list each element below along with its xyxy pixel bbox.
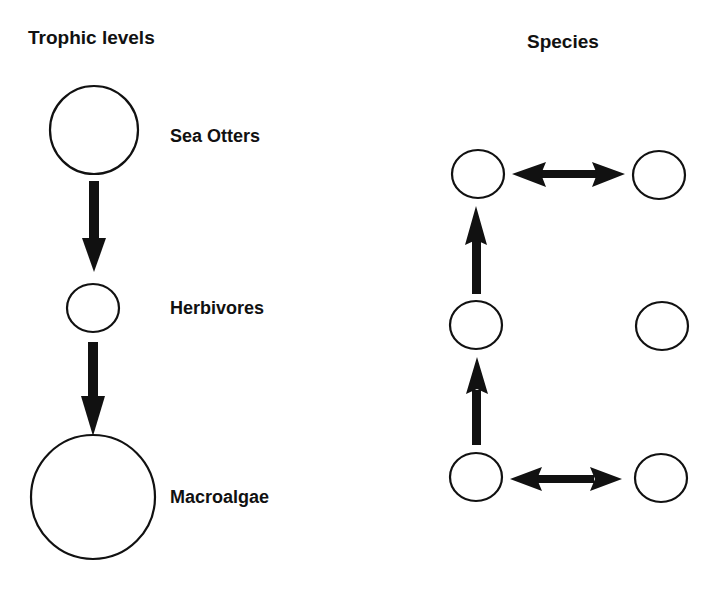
herbivores-label: Herbivores: [170, 298, 264, 318]
level-sea-otters: Sea Otters: [50, 86, 260, 174]
species-node-bottom-right: [635, 454, 687, 502]
species-node-mid-right: [636, 302, 688, 350]
double-arrow-icon: [512, 162, 625, 187]
arrow-down-icon: [82, 181, 106, 272]
trophic-diagram: Trophic levels Sea Otters Herbivores Mac…: [0, 0, 719, 592]
level-herbivores: Herbivores: [67, 284, 264, 332]
species-node-mid-left: [450, 301, 502, 349]
sea-otters-circle: [50, 86, 138, 174]
trophic-levels-title: Trophic levels: [28, 27, 155, 48]
arrow-up-icon: [465, 206, 487, 294]
herbivores-circle: [67, 284, 119, 332]
species-node-bottom-left: [450, 453, 502, 501]
macroalgae-circle: [31, 435, 155, 559]
species-node-top-right: [633, 151, 685, 199]
arrow-down-icon: [81, 342, 105, 436]
arrow-up-icon: [466, 357, 488, 445]
macroalgae-label: Macroalgae: [170, 487, 269, 507]
double-arrow-icon: [510, 467, 622, 491]
level-macroalgae: Macroalgae: [31, 435, 269, 559]
species-node-top-left: [452, 150, 504, 198]
species-title: Species: [527, 31, 599, 52]
sea-otters-label: Sea Otters: [170, 126, 260, 146]
